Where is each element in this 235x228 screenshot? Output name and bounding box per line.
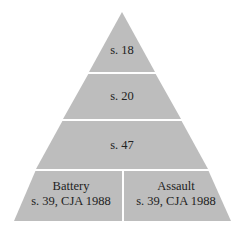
tier-2-label: s. 20 bbox=[82, 89, 162, 104]
base-left-line1: Battery bbox=[20, 179, 122, 194]
base-left-line2: s. 39, CJA 1988 bbox=[20, 194, 122, 209]
base-right-line1: Assault bbox=[124, 179, 228, 194]
tier-1-shape bbox=[89, 12, 155, 72]
base-right-line2: s. 39, CJA 1988 bbox=[124, 194, 228, 209]
tier-3-label: s. 47 bbox=[82, 138, 162, 153]
tier-1-label: s. 18 bbox=[82, 43, 162, 58]
